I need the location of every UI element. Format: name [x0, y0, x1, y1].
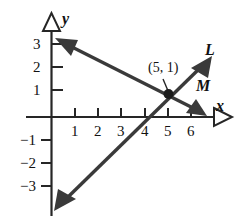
line-m-label: M: [196, 78, 210, 94]
x-tick-label-2: 2: [94, 124, 102, 139]
point-coordinate-label: (5, 1): [148, 61, 178, 75]
y-axis-label: y: [62, 11, 69, 27]
y-tick-label-3: 3: [33, 37, 41, 52]
x-tick-label-5: 5: [164, 124, 172, 139]
hollow-triangle-up-icon: [43, 13, 60, 31]
x-axis-ticks: [75, 108, 191, 117]
y-tick-label-neg3: −3: [20, 179, 36, 194]
graph-figure: 1 2 3 4 5 6 3 2 1 −1 −2 −3 y x L M (5, 1…: [0, 0, 244, 224]
x-tick-label-3: 3: [117, 124, 125, 139]
x-tick-label-1: 1: [71, 124, 79, 139]
coordinate-plane: [0, 0, 244, 224]
line-l-label: L: [205, 42, 215, 58]
y-tick-label-1: 1: [33, 83, 41, 98]
filled-circle-icon: [164, 89, 174, 99]
y-tick-label-neg2: −2: [20, 156, 36, 171]
x-tick-label-6: 6: [187, 124, 195, 139]
line-m: [55, 38, 207, 116]
x-axis-label: x: [216, 98, 224, 114]
filled-arrowhead-icon: [55, 38, 78, 56]
y-tick-label-neg1: −1: [20, 133, 36, 148]
y-tick-label-2: 2: [33, 60, 41, 75]
x-tick-label-4: 4: [141, 124, 149, 139]
